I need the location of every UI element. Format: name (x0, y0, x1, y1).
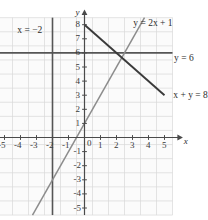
x-tick-label: -4 (14, 141, 22, 150)
y-axis-arrow-icon (82, 9, 88, 15)
x-tick-label: 4 (146, 141, 151, 150)
label-steep-line: y = 2x + 1 (133, 19, 172, 29)
x-axis-name: x (184, 137, 188, 146)
y-tick-label: -2 (74, 161, 82, 170)
y-tick-label: 7 (76, 34, 81, 43)
x-tick-label: -1 (62, 141, 70, 150)
x-tick-label: 1 (98, 141, 103, 150)
x-tick-label: 5 (162, 141, 167, 150)
x-axis-arrow-icon (177, 135, 183, 141)
label-vertical-line: x = −2 (17, 26, 42, 36)
y-tick-label: -1 (74, 147, 82, 156)
y-tick-label: -3 (74, 175, 82, 184)
x-tick-label: 3 (130, 141, 135, 150)
y-tick-label: 6 (76, 48, 81, 57)
x-tick-label: -2 (46, 141, 54, 150)
label-horizontal-line: y = 6 (174, 54, 194, 64)
y-tick-label: 8 (76, 20, 81, 29)
y-tick-label: 4 (76, 77, 81, 86)
y-tick-label: 5 (76, 63, 81, 72)
y-tick-label: -5 (74, 204, 82, 213)
y-axis-name: y (76, 8, 80, 17)
y-tick-label: 1 (76, 119, 81, 128)
graph-figure: x = −2 y = 2x + 1 y = 6 x + y = 8 x y -5… (0, 0, 208, 220)
y-tick-label: -4 (74, 189, 82, 198)
x-tick-label: -5 (0, 141, 6, 150)
y-tick-label: 2 (76, 105, 81, 114)
x-tick-label: 2 (114, 141, 119, 150)
x-tick-label: 0 (87, 139, 92, 148)
label-falling-line: x + y = 8 (173, 91, 207, 101)
y-tick-label: 3 (76, 91, 81, 100)
x-tick-label: -3 (30, 141, 38, 150)
